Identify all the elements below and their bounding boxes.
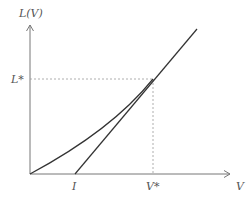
x-axis-label: V bbox=[236, 180, 245, 193]
v-star-label: V* bbox=[146, 180, 160, 193]
diagram-canvas: L(V) V L* V* I bbox=[0, 0, 251, 202]
value-curve bbox=[30, 79, 153, 174]
l-star-label: L* bbox=[10, 73, 24, 86]
i-label: I bbox=[71, 180, 77, 193]
y-axis-label: L(V) bbox=[18, 7, 43, 20]
tangent-line bbox=[75, 29, 197, 174]
